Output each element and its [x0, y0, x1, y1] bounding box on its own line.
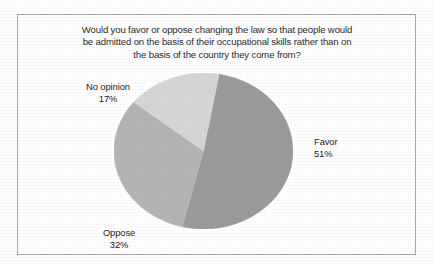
chart-title: Would you favor or oppose changing the l… [62, 24, 372, 61]
pie-label-favor-name: Favor [314, 136, 374, 148]
pie-label-no-opinion-name: No opinion [77, 81, 139, 93]
figure-frame: Would you favor or oppose changing the l… [17, 14, 416, 255]
pie-label-no-opinion-value: 17% [77, 93, 139, 105]
clipped-text-strip [0, 0, 433, 9]
pie-label-oppose-value: 32% [90, 239, 148, 251]
pie-label-no-opinion: No opinion 17% [77, 81, 139, 104]
pie-slice-group [114, 73, 293, 229]
chart-title-line-3: the basis of the country they come from? [62, 49, 372, 61]
pie-label-favor: Favor 51% [314, 136, 374, 159]
pie-label-favor-value: 51% [314, 148, 374, 160]
chart-title-line-1: Would you favor or oppose changing the l… [62, 24, 372, 36]
pie-chart-svg [114, 73, 293, 229]
chart-title-line-2: be admitted on the basis of their occupa… [62, 36, 372, 48]
pie-chart [114, 73, 293, 229]
pie-label-oppose-name: Oppose [90, 227, 148, 239]
pie-label-oppose: Oppose 32% [90, 227, 148, 250]
